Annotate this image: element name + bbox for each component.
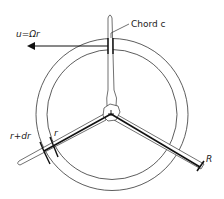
radius-R-line [111, 114, 200, 167]
rotor-svg: u=Ωr Chord c r+dr r R [0, 0, 224, 199]
rotor-diagram: u=Ωr Chord c r+dr r R [0, 0, 224, 199]
chord-label: Chord c [131, 19, 166, 29]
chord-leader-2 [111, 24, 129, 33]
velocity-arrow-head [27, 42, 35, 50]
inner-radius-label: r [54, 128, 59, 138]
tip-radius-label: R [206, 154, 212, 164]
blade-left [18, 114, 106, 165]
outer-radius-label: r+dr [10, 131, 32, 141]
velocity-label: u=Ωr [16, 29, 41, 39]
blade-top [107, 15, 117, 106]
